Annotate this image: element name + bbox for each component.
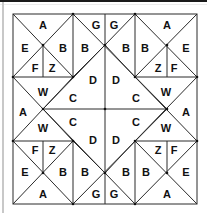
puzzle-line (105, 141, 135, 173)
puzzle-line (105, 45, 135, 77)
region-label-g: G (110, 188, 119, 200)
vertex-dot (134, 13, 137, 16)
region-label-e: E (21, 42, 28, 54)
region-label-b: B (141, 42, 149, 54)
region-label-c: C (132, 116, 140, 128)
vertex-dot (104, 44, 107, 47)
region-label-d: D (112, 74, 120, 86)
vertex-dot (42, 172, 45, 175)
vertex-dot (72, 203, 75, 206)
vertex-dot (166, 108, 169, 111)
vertex-dot (42, 44, 45, 47)
region-label-w: W (161, 122, 172, 134)
region-label-e: E (182, 42, 189, 54)
vertex-dot (72, 13, 75, 16)
letter-dissection-puzzle: AEBFZBGGBBAEZFDDWCACWCWACWDDFZEBABGGBZFB… (0, 0, 207, 219)
vertex-dot (166, 44, 169, 47)
vertex-dot (134, 140, 137, 143)
region-label-f: F (32, 62, 39, 74)
region-label-d: D (112, 134, 120, 146)
region-label-f: F (171, 62, 178, 74)
vertex-dot (134, 203, 137, 206)
region-label-z: Z (155, 62, 162, 74)
region-label-f: F (32, 144, 39, 156)
vertex-dot (196, 140, 199, 143)
vertex-dot (166, 172, 169, 175)
region-label-c: C (69, 116, 77, 128)
region-label-b: B (122, 42, 130, 54)
vertex-dot (196, 76, 199, 79)
region-label-z: Z (49, 144, 56, 156)
region-label-b: B (81, 166, 89, 178)
region-label-b: B (81, 42, 89, 54)
vertex-dot (12, 140, 15, 143)
region-label-a: A (39, 19, 47, 31)
region-label-z: Z (155, 144, 162, 156)
puzzle-line (73, 45, 105, 77)
region-label-w: W (38, 122, 49, 134)
vertex-dot (72, 140, 75, 143)
vertex-dot (72, 76, 75, 79)
region-label-a: A (163, 188, 171, 200)
region-label-g: G (110, 19, 119, 31)
region-label-a: A (182, 106, 190, 118)
region-label-w: W (161, 86, 172, 98)
region-label-g: G (92, 19, 101, 31)
region-label-e: E (182, 166, 189, 178)
region-label-a: A (163, 19, 171, 31)
vertex-dot (134, 76, 137, 79)
region-label-b: B (59, 42, 67, 54)
region-label-b: B (59, 166, 67, 178)
region-label-b: B (122, 166, 130, 178)
region-label-a: A (19, 106, 27, 118)
region-label-d: D (89, 134, 97, 146)
region-label-f: F (171, 144, 178, 156)
vertex-dot (104, 108, 107, 111)
region-label-d: D (89, 74, 97, 86)
region-label-c: C (69, 92, 77, 104)
vertex-dot (42, 108, 45, 111)
vertex-dot (104, 172, 107, 175)
region-label-w: W (38, 86, 49, 98)
region-label-z: Z (49, 62, 56, 74)
region-label-g: G (92, 188, 101, 200)
region-label-c: C (132, 92, 140, 104)
vertex-dot (12, 76, 15, 79)
region-label-b: B (142, 166, 150, 178)
region-label-a: A (39, 188, 47, 200)
region-label-e: E (21, 166, 28, 178)
